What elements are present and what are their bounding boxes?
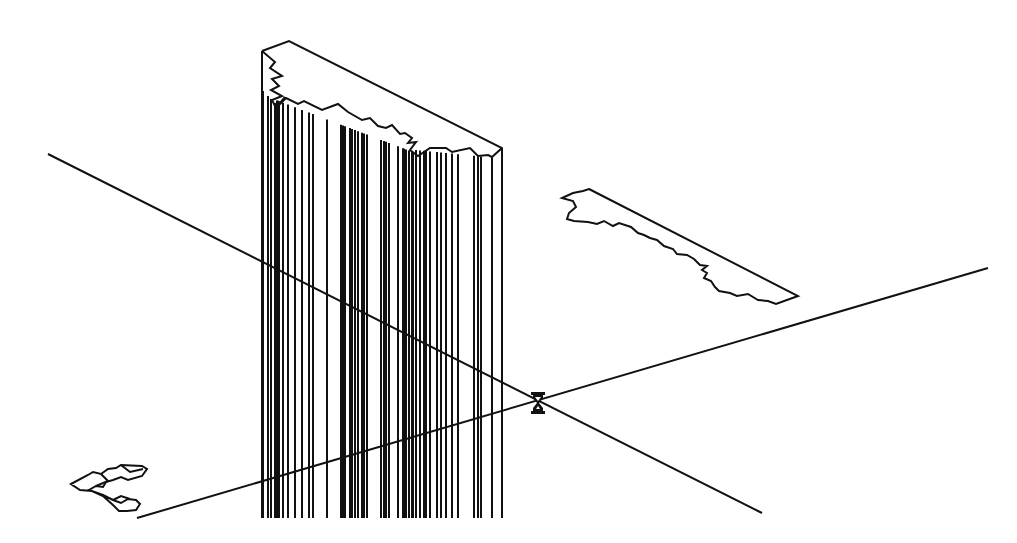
ucs-axis-lines [48, 154, 988, 518]
hourglass-cursor-icon [531, 392, 545, 414]
column-flute-lines [263, 91, 481, 518]
profile-outline-shape[interactable] [562, 189, 798, 304]
axis-line-2 [137, 268, 988, 518]
wireframe-canvas[interactable] [0, 0, 1017, 543]
small-bracket-object[interactable] [71, 465, 147, 511]
cad-drawing-viewport[interactable] [0, 0, 1017, 543]
